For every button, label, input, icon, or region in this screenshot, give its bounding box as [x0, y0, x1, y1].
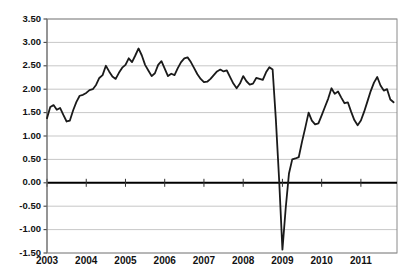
y-tick-label: 3.00	[23, 36, 42, 47]
x-tick-label: 2009	[271, 255, 294, 266]
y-tick-label: -0.50	[19, 200, 41, 211]
y-tick-label: -1.00	[19, 223, 41, 234]
x-tick-label: 2006	[154, 255, 177, 266]
x-tick-label: 2010	[311, 255, 334, 266]
x-tick-label: 2011	[350, 255, 372, 266]
x-tick-label: 2007	[193, 255, 216, 266]
y-tick-label: 1.00	[23, 130, 42, 141]
x-tick-label: 2004	[75, 255, 98, 266]
y-tick-label: 2.00	[23, 83, 42, 94]
y-tick-label: 1.50	[23, 106, 42, 117]
chart-background	[0, 0, 415, 271]
y-tick-label: 0.50	[23, 153, 42, 164]
chart-container: 3.503.002.502.001.501.000.500.00-0.50-1.…	[0, 0, 415, 271]
line-chart: 3.503.002.502.001.501.000.500.00-0.50-1.…	[0, 0, 415, 271]
y-tick-label: 3.50	[23, 13, 42, 24]
x-tick-label: 2005	[114, 255, 137, 266]
x-axis-labels: 200320042005200620072008200920102011	[36, 255, 372, 266]
y-tick-label: 0.00	[23, 176, 42, 187]
x-tick-label: 2008	[232, 255, 255, 266]
y-tick-label: 2.50	[23, 59, 42, 70]
x-tick-label: 2003	[36, 255, 59, 266]
